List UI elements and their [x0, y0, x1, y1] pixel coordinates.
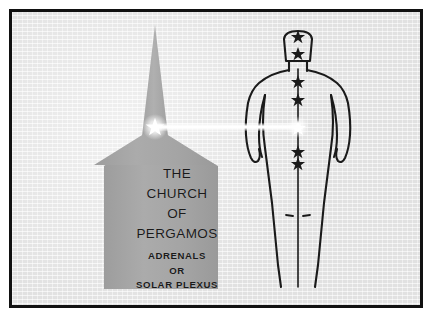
figure-right-outline — [307, 70, 350, 162]
church-subtitle-line-2: OR — [118, 266, 236, 276]
church-title-line-3: OF — [118, 207, 236, 221]
head-star — [291, 47, 305, 60]
church-subtitle-line-3: SOLAR PLEXUS — [118, 280, 236, 290]
church-subtitle-line-1: ADRENALS — [118, 251, 236, 261]
church-title: THE CHURCH OF PERGAMOS — [118, 167, 236, 247]
illustration-canvas: THE CHURCH OF PERGAMOS ADRENALS OR SOLAR… — [0, 0, 432, 317]
church-title-line-1: THE — [118, 167, 236, 181]
figure-stars — [287, 30, 309, 170]
framed-plate: THE CHURCH OF PERGAMOS ADRENALS OR SOLAR… — [9, 9, 423, 308]
steeple-star-group — [142, 114, 168, 140]
beam-core — [153, 125, 301, 128]
light-beam — [153, 124, 301, 131]
church-subtitle: ADRENALS OR SOLAR PLEXUS — [118, 251, 236, 295]
figure-right-leg — [315, 95, 333, 287]
church-title-line-4: PERGAMOS — [118, 227, 236, 241]
church-title-line-2: CHURCH — [118, 187, 236, 201]
figure-left-outline — [246, 70, 289, 162]
